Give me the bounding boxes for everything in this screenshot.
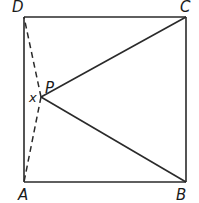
segment-pd-dashed — [24, 17, 41, 97]
vertex-label-a: A — [17, 186, 28, 203]
segment-pb — [41, 97, 186, 182]
angle-label-x: x — [28, 90, 37, 105]
vertex-label-b: B — [176, 186, 186, 203]
point-label-p: P — [45, 79, 55, 97]
square-diagram: D C A B P x — [0, 0, 199, 203]
segment-pc — [41, 17, 186, 97]
vertex-label-d: D — [12, 0, 24, 16]
segment-pa-dashed — [24, 97, 41, 182]
vertex-label-c: C — [180, 0, 191, 16]
